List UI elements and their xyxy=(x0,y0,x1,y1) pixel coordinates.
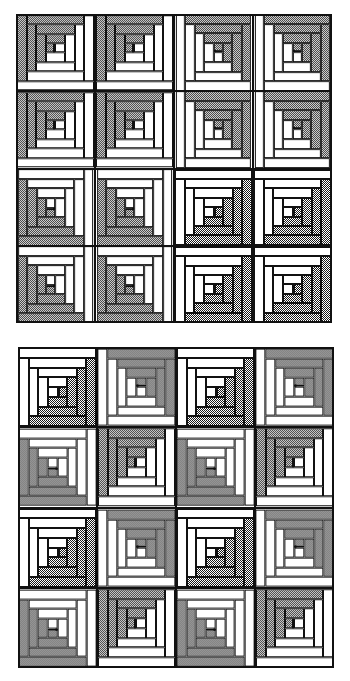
log-strip-light-top xyxy=(87,589,97,666)
log-strip-dark-bottom xyxy=(264,235,322,244)
log-strip-light-left xyxy=(323,428,333,496)
log-strip-light-top xyxy=(106,71,164,80)
log-strip-light-left xyxy=(163,15,173,81)
log-cabin-rings xyxy=(176,91,251,168)
log-strip-light-left xyxy=(314,599,324,648)
log-strip-light-top xyxy=(87,429,97,506)
log-strip-light-left xyxy=(19,518,29,586)
log-strip-light-top xyxy=(285,467,304,477)
log-strip-dark-bottom xyxy=(38,407,77,417)
log-strip-light-left xyxy=(46,198,55,208)
log-strip-light-top xyxy=(274,33,283,72)
log-strip-light-top xyxy=(177,348,254,358)
log-strip-dark-right xyxy=(38,638,67,648)
center-square xyxy=(137,385,139,387)
log-strip-dark-bottom xyxy=(18,439,28,497)
log-cabin-rings xyxy=(255,14,330,91)
center-square xyxy=(214,207,216,209)
log-strip-light-top xyxy=(275,528,285,567)
log-strip-light-top xyxy=(195,111,204,150)
center-square xyxy=(214,628,216,630)
log-strip-dark-right xyxy=(77,528,87,577)
log-strip-light-top xyxy=(245,429,255,506)
log-strip-light-left xyxy=(186,439,235,449)
log-strip-dark-right xyxy=(176,496,244,506)
log-strip-light-left xyxy=(48,618,58,628)
log-strip-dark-right xyxy=(106,304,153,314)
log-strip-light-top xyxy=(283,198,302,207)
log-strip-dark-right xyxy=(312,266,322,313)
log-strip-dark-right xyxy=(256,589,266,657)
log-cabin-rings xyxy=(176,589,254,666)
log-strip-dark-right xyxy=(321,179,331,245)
quilt-block xyxy=(174,169,253,246)
log-cabin-rings xyxy=(256,428,333,506)
log-strip-light-top xyxy=(77,599,87,657)
log-strip-dark-right xyxy=(36,111,46,139)
log-strip-light-left xyxy=(264,159,330,169)
center-square xyxy=(133,207,135,209)
log-strip-light-top xyxy=(283,120,292,139)
log-strip-light-left xyxy=(48,387,58,397)
log-strip-light-left xyxy=(273,198,283,226)
log-strip-dark-bottom xyxy=(106,92,164,101)
log-strip-light-top xyxy=(175,170,252,179)
log-strip-dark-right xyxy=(17,15,27,81)
log-strip-dark-right xyxy=(244,358,254,426)
log-strip-light-left xyxy=(185,188,195,235)
quilt-block xyxy=(255,588,334,668)
log-strip-light-left xyxy=(204,62,232,72)
log-strip-light-top xyxy=(285,378,295,397)
log-strip-light-left xyxy=(28,439,77,449)
log-strip-dark-right xyxy=(275,519,324,529)
log-strip-light-left xyxy=(206,458,216,468)
log-strip-light-left xyxy=(117,406,166,416)
log-strip-dark-right xyxy=(244,518,254,586)
log-strip-light-top xyxy=(266,487,324,497)
log-strip-light-left xyxy=(18,429,86,439)
center-square xyxy=(295,546,297,548)
log-strip-light-top xyxy=(19,348,96,358)
log-strip-light-top xyxy=(117,528,127,567)
log-cabin-rings xyxy=(18,429,96,506)
log-strip-light-left xyxy=(194,275,204,303)
log-strip-dark-right xyxy=(196,638,225,648)
block-grid-bottom xyxy=(18,347,334,668)
log-strip-dark-bottom xyxy=(27,15,85,24)
log-cabin-rings xyxy=(176,14,251,91)
log-strip-light-top xyxy=(206,377,225,387)
log-strip-dark-bottom xyxy=(127,608,146,618)
log-strip-light-top xyxy=(125,53,144,62)
log-strip-light-left xyxy=(195,72,242,82)
log-strip-light-left xyxy=(37,188,65,198)
log-strip-dark-right xyxy=(27,102,37,149)
log-strip-light-left xyxy=(293,130,302,140)
log-strip-dark-bottom xyxy=(187,577,245,587)
log-strip-dark-right xyxy=(283,33,311,43)
log-strip-light-top xyxy=(67,609,77,648)
block-grid-top xyxy=(16,14,332,323)
log-strip-light-left xyxy=(204,284,214,293)
quilt-block xyxy=(174,14,253,91)
log-strip-dark-right xyxy=(242,179,252,245)
log-strip-light-top xyxy=(115,62,154,71)
quilt-block xyxy=(95,246,174,323)
log-strip-light-left xyxy=(214,130,223,140)
log-strip-dark-right xyxy=(27,304,74,314)
log-strip-dark-bottom xyxy=(125,34,144,43)
log-strip-light-top xyxy=(153,178,162,236)
log-strip-dark-bottom xyxy=(117,599,156,609)
log-strip-light-left xyxy=(175,256,185,322)
log-strip-dark-bottom xyxy=(29,416,87,426)
center-square xyxy=(293,207,295,209)
center-square xyxy=(133,128,135,130)
center-square xyxy=(137,546,139,548)
log-strip-light-left xyxy=(185,266,195,313)
log-strip-light-top xyxy=(108,647,166,657)
log-strip-light-top xyxy=(135,198,144,217)
log-strip-light-top xyxy=(265,358,275,416)
quilt-block xyxy=(16,14,95,91)
log-strip-dark-right xyxy=(107,509,175,519)
log-strip-dark-right xyxy=(204,33,232,43)
log-strip-light-top xyxy=(264,256,322,265)
